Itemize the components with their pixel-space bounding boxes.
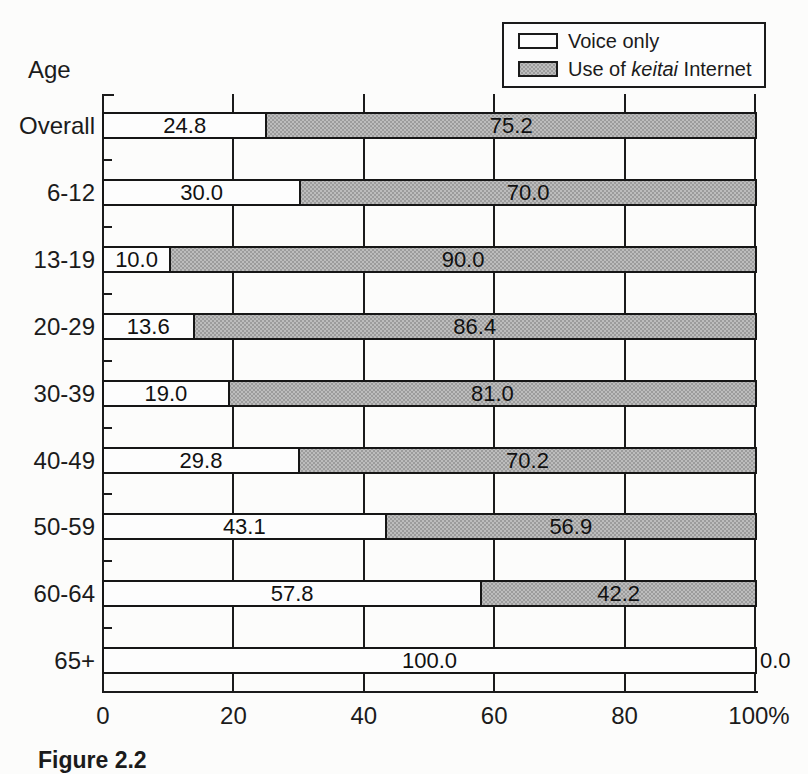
bar-segment-keitai-internet: 86.4 (193, 315, 755, 338)
value-label-keitai-internet: 86.4 (195, 315, 755, 338)
bar-segment-keitai-internet: 70.0 (299, 181, 755, 204)
x-tick-label-60: 60 (481, 702, 508, 730)
x-tick-label-100: 100% (728, 702, 789, 730)
value-label-voice-only: 30.0 (104, 181, 299, 204)
category-label-30-39: 30-39 (0, 380, 95, 407)
bar-segment-keitai-internet: 56.9 (385, 515, 755, 538)
value-label-keitai-internet: 70.0 (301, 181, 755, 204)
bar-row-Overall: 24.875.2 (102, 112, 757, 139)
value-label-keitai-internet: 75.2 (267, 114, 755, 137)
x-tick-label-80: 80 (611, 702, 638, 730)
legend: Voice only Use of keitai Internet (502, 22, 766, 88)
bar-segment-keitai-internet: 42.2 (480, 582, 755, 605)
category-label-20-29: 20-29 (0, 313, 95, 340)
value-label-keitai-internet: 90.0 (171, 248, 755, 271)
y-axis-category-tick (103, 493, 112, 495)
value-label-keitai-internet: 42.2 (482, 582, 755, 605)
bar-row-20-29: 13.686.4 (102, 313, 757, 340)
bar-segment-keitai-internet: 75.2 (265, 114, 755, 137)
bar-segment-keitai-internet: 70.2 (298, 449, 755, 472)
category-label-40-49: 40-49 (0, 447, 95, 474)
y-axis-category-tick (103, 159, 112, 161)
legend-item-keitai-internet: Use of keitai Internet (518, 58, 764, 81)
category-label-6-12: 6-12 (0, 179, 95, 206)
value-label-voice-only: 57.8 (104, 582, 480, 605)
value-label-keitai-internet: 70.2 (300, 449, 755, 472)
value-label-voice-only: 24.8 (104, 114, 265, 137)
y-axis-category-tick (103, 360, 112, 362)
value-label-voice-only: 13.6 (104, 315, 193, 338)
value-label-keitai-internet: 56.9 (387, 515, 755, 538)
y-axis-category-tick (103, 293, 112, 295)
value-label-keitai-internet-outside: 0.0 (760, 649, 791, 672)
x-axis-line (102, 691, 758, 693)
y-axis-category-tick (103, 560, 112, 562)
bar-segment-keitai-internet: 81.0 (228, 382, 755, 405)
bar-row-60-64: 57.842.2 (102, 580, 757, 607)
legend-swatch-gray (518, 61, 558, 77)
bar-row-40-49: 29.870.2 (102, 447, 757, 474)
value-label-voice-only: 100.0 (104, 649, 755, 672)
value-label-keitai-internet: 81.0 (230, 382, 755, 405)
y-axis-title: Age (28, 56, 71, 84)
legend-item-voice-only: Voice only (518, 30, 764, 53)
value-label-voice-only: 19.0 (104, 382, 228, 405)
value-label-voice-only: 29.8 (104, 449, 298, 472)
value-label-voice-only: 10.0 (104, 248, 169, 271)
value-label-voice-only: 43.1 (104, 515, 385, 538)
bar-row-65+: 100.00.0 (102, 647, 757, 674)
bar-row-30-39: 19.081.0 (102, 380, 757, 407)
x-tick-label-20: 20 (220, 702, 247, 730)
bar-segment-keitai-internet: 90.0 (169, 248, 755, 271)
category-label-13-19: 13-19 (0, 246, 95, 273)
legend-swatch-white (518, 33, 558, 49)
figure-caption: Figure 2.2 (38, 747, 147, 774)
x-tick-label-40: 40 (350, 702, 377, 730)
y-axis-category-tick (103, 427, 112, 429)
y-axis-category-tick (103, 226, 112, 228)
bar-row-13-19: 10.090.0 (102, 246, 757, 273)
y-axis-top-cap (102, 94, 114, 96)
legend-label-voice-only: Voice only (568, 30, 659, 53)
bar-row-6-12: 30.070.0 (102, 179, 757, 206)
y-axis-category-tick (103, 627, 112, 629)
category-label-60-64: 60-64 (0, 580, 95, 607)
category-label-50-59: 50-59 (0, 513, 95, 540)
category-label-Overall: Overall (0, 112, 95, 139)
category-label-65+: 65+ (0, 647, 95, 674)
x-tick-label-0: 0 (96, 702, 109, 730)
bar-row-50-59: 43.156.9 (102, 513, 757, 540)
legend-label-keitai-internet: Use of keitai Internet (568, 58, 751, 81)
